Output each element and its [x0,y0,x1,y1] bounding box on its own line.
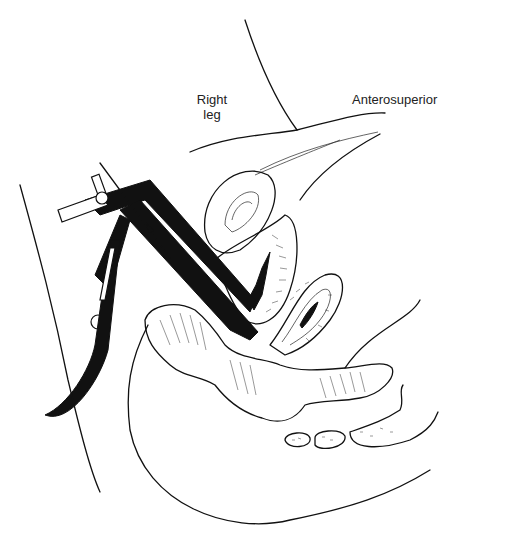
anatomical-illustration: Right leg Anterosuperior [0,0,514,548]
coccyx-segment-1 [285,433,310,447]
bladder [205,171,276,253]
label-right-leg-line1: Right [192,92,232,107]
bowel-loops [145,305,393,421]
illustration-drawing [0,0,514,548]
right-leg-outline [245,20,297,130]
speculum-icon [45,174,258,416]
coccyx-segment-2 [315,431,345,449]
label-right-leg: Right leg [192,92,232,122]
label-right-leg-line2: leg [192,107,232,122]
label-anterosuperior: Anterosuperior [352,92,472,107]
sacrum [350,385,438,447]
buttock-outline [128,325,430,524]
round-ligament [260,132,378,170]
left-thigh-outline [20,185,100,492]
